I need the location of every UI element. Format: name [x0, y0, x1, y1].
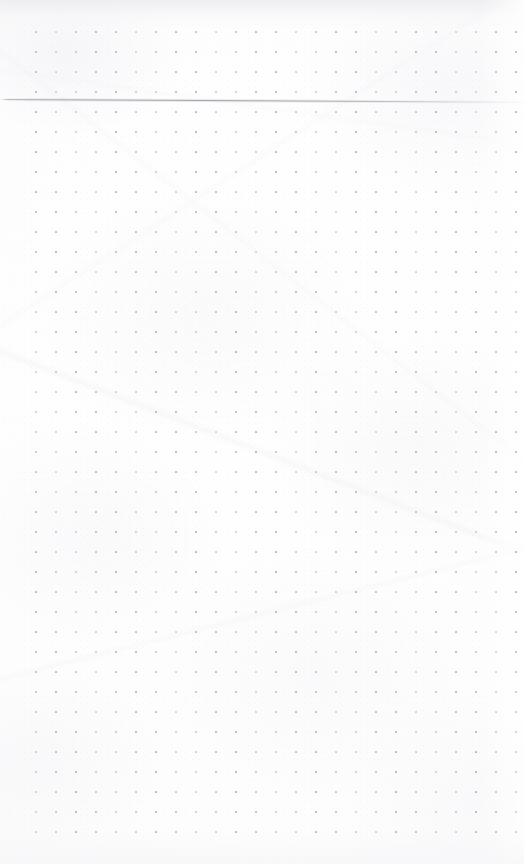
grid-dot — [115, 371, 117, 373]
grid-dot — [395, 271, 397, 273]
grid-dot — [515, 431, 517, 433]
grid-dot — [35, 411, 37, 413]
grid-dot — [215, 131, 217, 133]
grid-dot — [315, 151, 317, 153]
grid-dot — [235, 411, 237, 413]
grid-dot — [495, 691, 497, 693]
grid-dot — [75, 811, 77, 813]
grid-dot — [295, 491, 297, 493]
grid-dot — [435, 371, 437, 373]
grid-dot — [135, 211, 137, 213]
grid-dot — [375, 351, 377, 353]
grid-dot — [355, 731, 357, 733]
grid-dot — [215, 171, 217, 173]
grid-dot — [195, 231, 197, 233]
grid-dot — [215, 691, 217, 693]
grid-dot — [215, 731, 217, 733]
grid-dot — [455, 731, 457, 733]
grid-dot — [395, 591, 397, 593]
grid-dot — [455, 751, 457, 753]
grid-dot — [75, 211, 77, 213]
grid-dot — [175, 691, 177, 693]
grid-dot — [315, 211, 317, 213]
grid-dot — [95, 431, 97, 433]
grid-dot — [375, 131, 377, 133]
grid-dot — [95, 31, 97, 33]
grid-dot — [475, 731, 477, 733]
grid-dot — [135, 431, 137, 433]
grid-dot — [95, 311, 97, 313]
grid-dot — [315, 831, 317, 833]
grid-dot — [355, 271, 357, 273]
grid-dot — [375, 251, 377, 253]
grid-dot — [135, 591, 137, 593]
grid-dot — [395, 451, 397, 453]
grid-dot — [195, 171, 197, 173]
grid-dot — [115, 751, 117, 753]
grid-dot — [155, 271, 157, 273]
grid-dot — [295, 731, 297, 733]
grid-dot — [335, 151, 337, 153]
grid-dot — [95, 731, 97, 733]
grid-dot — [95, 651, 97, 653]
grid-dot — [195, 831, 197, 833]
grid-dot — [315, 651, 317, 653]
grid-dot — [315, 171, 317, 173]
grid-dot — [375, 411, 377, 413]
grid-dot — [475, 171, 477, 173]
grid-dot — [195, 51, 197, 53]
grid-dot — [415, 691, 417, 693]
grid-dot — [315, 751, 317, 753]
grid-dot — [495, 431, 497, 433]
grid-dot — [155, 171, 157, 173]
grid-dot — [215, 571, 217, 573]
grid-dot — [175, 491, 177, 493]
grid-dot — [55, 831, 57, 833]
grid-dot — [315, 31, 317, 33]
grid-dot — [115, 71, 117, 73]
grid-dot — [235, 471, 237, 473]
grid-dot — [515, 631, 517, 633]
grid-dot — [415, 771, 417, 773]
grid-dot — [95, 811, 97, 813]
grid-dot — [95, 351, 97, 353]
grid-dot — [235, 231, 237, 233]
grid-dot — [415, 651, 417, 653]
grid-dot — [75, 171, 77, 173]
grid-dot — [315, 191, 317, 193]
grid-dot — [295, 511, 297, 513]
grid-dot — [335, 271, 337, 273]
grid-dot — [335, 291, 337, 293]
grid-dot — [375, 791, 377, 793]
grid-dot — [395, 691, 397, 693]
grid-dot — [55, 571, 57, 573]
grid-dot — [235, 631, 237, 633]
grid-dot — [475, 371, 477, 373]
grid-dot — [115, 591, 117, 593]
grid-dot — [175, 451, 177, 453]
grid-dot — [275, 71, 277, 73]
grid-dot — [55, 171, 57, 173]
grid-dot — [155, 51, 157, 53]
grid-dot — [475, 531, 477, 533]
grid-dot — [55, 751, 57, 753]
grid-dot — [515, 291, 517, 293]
grid-dot — [415, 411, 417, 413]
grid-dot — [515, 831, 517, 833]
grid-dot — [375, 751, 377, 753]
grid-dot — [355, 151, 357, 153]
grid-dot — [435, 411, 437, 413]
grid-dot — [275, 571, 277, 573]
grid-dot — [415, 291, 417, 293]
grid-dot — [495, 231, 497, 233]
grid-dot — [455, 31, 457, 33]
grid-dot — [135, 751, 137, 753]
grid-dot — [415, 151, 417, 153]
grid-dot — [475, 671, 477, 673]
grid-dot — [395, 31, 397, 33]
grid-dot — [495, 571, 497, 573]
grid-dot — [255, 531, 257, 533]
grid-dot — [335, 111, 337, 113]
grid-dot — [455, 191, 457, 193]
grid-dot — [275, 511, 277, 513]
